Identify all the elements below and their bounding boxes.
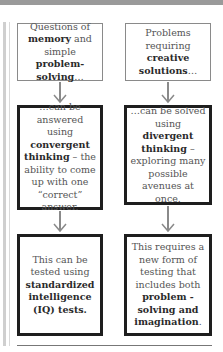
box-text: …can be answered using convergent thinki… [23,101,97,214]
box-text: …can be solved using divergent thinking … [130,105,206,205]
bottom-rule [17,345,212,346]
arrow-down-icon [161,82,175,104]
top-band [0,0,223,5]
left-margin-line [9,22,10,346]
arrow-down-icon [161,206,175,233]
new-testing-box: This requires a new form of testing that… [124,234,212,336]
convergent-thinking-box: …can be answered using convergent thinki… [17,105,103,210]
arrow-down-icon [53,211,67,233]
memory-questions-box: Questions of memory and simple problem-s… [17,23,103,81]
box-text: This can be tested using standardized in… [23,254,97,317]
divergent-thinking-box: …can be solved using divergent thinking … [124,105,212,205]
creative-problems-box: Problems requiring creative solutions… [125,23,211,81]
left-margin-bar [3,22,6,346]
box-text: Questions of memory and simple problem-s… [21,21,99,84]
box-text: This requires a new form of testing that… [130,241,206,329]
box-text: Problems requiring creative solutions… [129,27,207,77]
iq-tests-box: This can be tested using standardized in… [17,234,103,336]
